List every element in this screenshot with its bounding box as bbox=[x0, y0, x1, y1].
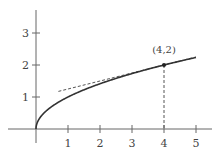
y-tick-label: 1 bbox=[22, 91, 29, 104]
x-tick-label: 3 bbox=[129, 137, 136, 150]
point-label: (4,2) bbox=[152, 44, 176, 55]
point-marker bbox=[162, 63, 166, 67]
chart-canvas: 1 2 3 4 5 1 2 3 (4,2) bbox=[0, 0, 222, 155]
x-tick-label: 4 bbox=[161, 137, 168, 150]
y-tick-label: 2 bbox=[22, 59, 29, 72]
x-tick-labels: 1 2 3 4 5 bbox=[65, 137, 200, 150]
y-tick-label: 3 bbox=[22, 27, 29, 40]
sqrt-curve bbox=[36, 57, 196, 129]
y-tick-labels: 1 2 3 bbox=[22, 27, 29, 104]
x-tick-label: 2 bbox=[97, 137, 104, 150]
x-tick-label: 5 bbox=[193, 137, 200, 150]
x-tick-label: 1 bbox=[65, 137, 72, 150]
